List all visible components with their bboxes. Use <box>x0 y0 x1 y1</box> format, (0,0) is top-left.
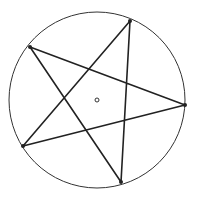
pentagram-star <box>23 21 185 182</box>
vertex-dot <box>21 144 25 148</box>
vertex-dot <box>28 45 32 49</box>
center-point <box>95 98 99 102</box>
vertex-dot <box>119 180 123 184</box>
vertex-dot <box>183 103 187 107</box>
pentagram-diagram <box>0 0 199 197</box>
vertex-dot <box>128 19 132 23</box>
